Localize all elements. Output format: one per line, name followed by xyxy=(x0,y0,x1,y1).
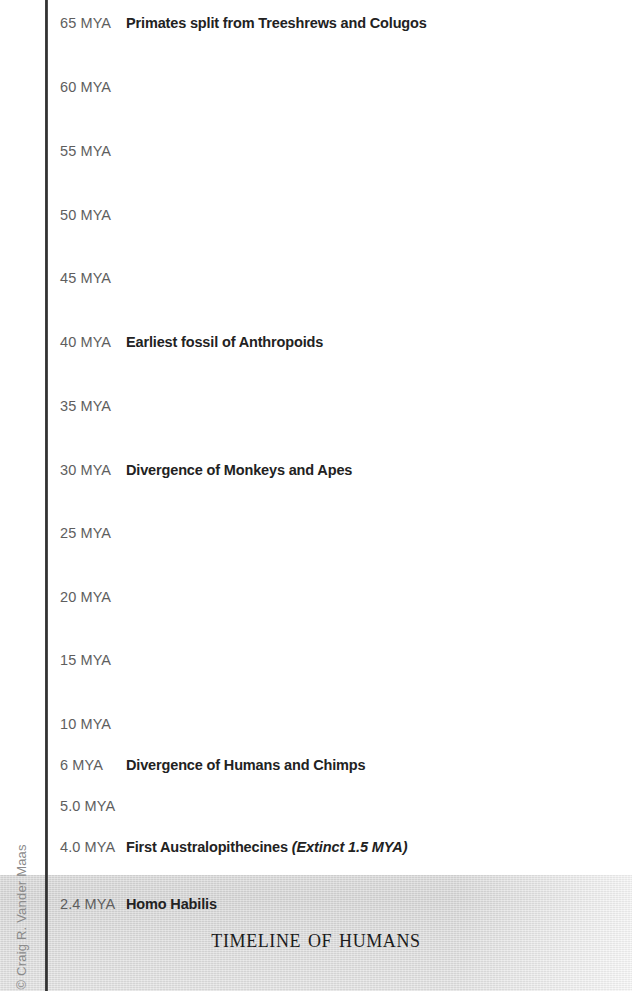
timeline-page: 65 MYAPrimates split from Treeshrews and… xyxy=(0,0,632,991)
timeline-row: 4.0 MYAFirst Australopithecines (Extinct… xyxy=(60,836,407,858)
timeline-event-text: Earliest fossil of Anthropoids xyxy=(126,334,323,350)
timeline-row: 15 MYA xyxy=(60,649,122,671)
timeline-tick-label: 45 MYA xyxy=(60,270,122,286)
timeline-event-text: Divergence of Humans and Chimps xyxy=(126,757,366,773)
timeline-row: 30 MYADivergence of Monkeys and Apes xyxy=(60,459,352,481)
timeline-tick-label: 30 MYA xyxy=(60,462,122,478)
timeline-event-text: Divergence of Monkeys and Apes xyxy=(126,462,352,478)
timeline-row-list: 65 MYAPrimates split from Treeshrews and… xyxy=(0,0,632,991)
timeline-tick-label: 6 MYA xyxy=(60,757,122,773)
timeline-event-note: (Extinct 1.5 MYA) xyxy=(292,839,408,855)
timeline-row: 5.0 MYA xyxy=(60,795,122,817)
timeline-tick-label: 20 MYA xyxy=(60,589,122,605)
timeline-row: 65 MYAPrimates split from Treeshrews and… xyxy=(60,12,427,34)
timeline-event-label: First Australopithecines (Extinct 1.5 MY… xyxy=(126,839,407,855)
timeline-tick-label: 35 MYA xyxy=(60,398,122,414)
timeline-row: 6 MYADivergence of Humans and Chimps xyxy=(60,754,366,776)
timeline-row: 50 MYA xyxy=(60,204,122,226)
timeline-event-text: Primates split from Treeshrews and Colug… xyxy=(126,15,427,31)
timeline-row: 20 MYA xyxy=(60,586,122,608)
timeline-tick-label: 2.4 MYA xyxy=(60,896,122,912)
timeline-event-label: Divergence of Monkeys and Apes xyxy=(126,462,352,478)
timeline-row: 60 MYA xyxy=(60,76,122,98)
timeline-tick-label: 15 MYA xyxy=(60,652,122,668)
timeline-tick-label: 50 MYA xyxy=(60,207,122,223)
copyright-credit: © Craig R. Vander Maas xyxy=(14,790,29,990)
timeline-row: 2.4 MYAHomo Habilis xyxy=(60,893,217,915)
page-title: Timeline of Humans xyxy=(0,925,632,953)
timeline-tick-label: 65 MYA xyxy=(60,15,122,31)
timeline-tick-label: 5.0 MYA xyxy=(60,798,122,814)
timeline-event-text: Homo Habilis xyxy=(126,896,217,912)
timeline-event-text: First Australopithecines xyxy=(126,839,288,855)
timeline-event-label: Homo Habilis xyxy=(126,896,217,912)
timeline-tick-label: 25 MYA xyxy=(60,525,122,541)
timeline-tick-label: 60 MYA xyxy=(60,79,122,95)
timeline-row: 10 MYA xyxy=(60,713,122,735)
timeline-row: 55 MYA xyxy=(60,140,122,162)
timeline-event-label: Earliest fossil of Anthropoids xyxy=(126,334,323,350)
timeline-tick-label: 4.0 MYA xyxy=(60,839,122,855)
timeline-row: 35 MYA xyxy=(60,395,122,417)
timeline-tick-label: 10 MYA xyxy=(60,716,122,732)
timeline-row: 40 MYAEarliest fossil of Anthropoids xyxy=(60,331,323,353)
timeline-row: 45 MYA xyxy=(60,267,122,289)
timeline-row: 25 MYA xyxy=(60,522,122,544)
timeline-event-label: Primates split from Treeshrews and Colug… xyxy=(126,15,427,31)
timeline-tick-label: 55 MYA xyxy=(60,143,122,159)
timeline-tick-label: 40 MYA xyxy=(60,334,122,350)
timeline-event-label: Divergence of Humans and Chimps xyxy=(126,757,366,773)
